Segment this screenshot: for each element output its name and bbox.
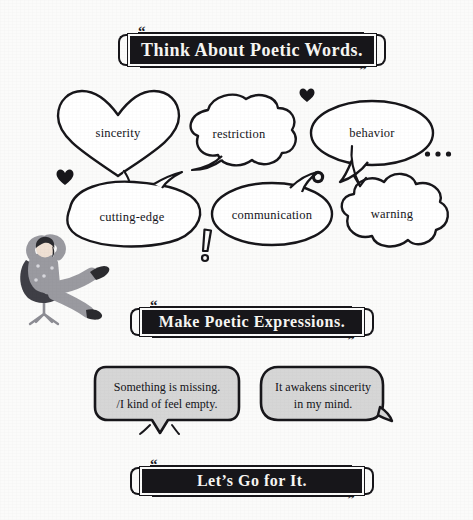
expression-bubble-something-is-missing[interactable]: Something is missing. /I kind of feel em…	[92, 363, 242, 435]
close-quote-icon: ”	[348, 333, 355, 348]
banner-rule-top	[150, 306, 352, 308]
banner-lets-go-for-it: “ ” Let’s Go for It.	[128, 459, 376, 503]
illustration-person-relaxing-in-office-chair	[14, 232, 126, 328]
banner-make-poetic-expressions: “ ” Make Poetic Expressions.	[128, 300, 376, 344]
banner-go-label: Let’s Go for It.	[197, 472, 307, 490]
poster-canvas: “ ” Think About Poetic Words. sincerity …	[0, 0, 473, 520]
banner-rule-bottom	[152, 336, 354, 338]
close-quote-icon: ”	[348, 492, 355, 507]
word-bubble-behavior[interactable]: behavior	[308, 98, 436, 182]
banner-think-about-poetic-words: “ ” Think About Poetic Words.	[116, 26, 388, 74]
banner-rule-top	[138, 32, 364, 34]
word-bubble-communication[interactable]: communication	[208, 180, 336, 248]
banner-think-label: Think About Poetic Words.	[141, 40, 363, 61]
banner-rule-bottom	[140, 66, 366, 68]
word-bubble-restriction[interactable]: restriction	[178, 90, 300, 178]
word-bubble-sincerity[interactable]: sincerity	[52, 88, 184, 180]
word-bubble-warning[interactable]: warning	[330, 172, 454, 250]
banner-make-label: Make Poetic Expressions.	[159, 313, 345, 331]
banner-bar: Think About Poetic Words.	[130, 36, 374, 64]
banner-bar: Make Poetic Expressions.	[142, 310, 362, 334]
expression-bubble-it-awakens-sincerity[interactable]: It awakens sincerity in my mind.	[258, 363, 388, 431]
banner-bar: Let’s Go for It.	[142, 469, 362, 493]
banner-rule-bottom	[152, 495, 354, 497]
close-quote-icon: ”	[360, 63, 367, 78]
banner-rule-top	[150, 465, 352, 467]
